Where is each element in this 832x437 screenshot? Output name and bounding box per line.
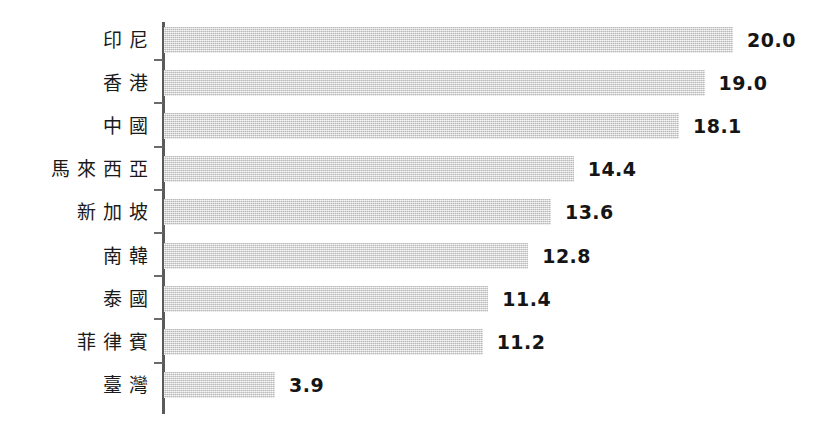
category-label: 中國	[96, 116, 155, 135]
category-label: 泰國	[96, 289, 155, 308]
bar-value-label: 12.8	[542, 245, 591, 267]
bar-row: 泰國11.4	[0, 277, 832, 320]
bar	[164, 286, 488, 312]
category-label: 香港	[96, 73, 155, 92]
bar	[164, 113, 679, 139]
bar	[164, 329, 483, 355]
category-label: 印尼	[96, 30, 155, 49]
bar	[164, 70, 705, 96]
bar	[164, 372, 275, 398]
bar-chart: 印尼20.0香港19.0中國18.1馬來西亞14.4新加坡13.6南韓12.8泰…	[0, 0, 832, 437]
bar-row: 中國18.1	[0, 104, 832, 147]
bar-row: 南韓12.8	[0, 234, 832, 277]
bar-row: 印尼20.0	[0, 18, 832, 61]
category-label: 新加坡	[70, 203, 155, 222]
bar	[164, 27, 733, 53]
bar-row: 香港19.0	[0, 61, 832, 104]
bar-value-label: 18.1	[693, 115, 742, 137]
bar-value-label: 11.2	[497, 331, 546, 353]
bar-value-label: 11.4	[502, 288, 551, 310]
category-label: 南韓	[96, 246, 155, 265]
category-label: 馬來西亞	[44, 160, 155, 179]
plot-area: 印尼20.0香港19.0中國18.1馬來西亞14.4新加坡13.6南韓12.8泰…	[0, 0, 832, 437]
category-label: 臺灣	[96, 376, 155, 395]
bar-row: 新加坡13.6	[0, 191, 832, 234]
bar-value-label: 20.0	[747, 29, 796, 51]
bar-value-label: 14.4	[588, 158, 637, 180]
bar	[164, 199, 551, 225]
bar-value-label: 19.0	[719, 72, 768, 94]
bar	[164, 156, 574, 182]
bar-row: 菲律賓11.2	[0, 320, 832, 363]
bar-row: 馬來西亞14.4	[0, 148, 832, 191]
category-label: 菲律賓	[70, 332, 155, 351]
bar-value-label: 13.6	[565, 201, 614, 223]
bar-row: 臺灣3.9	[0, 364, 832, 407]
bar	[164, 243, 528, 269]
bar-value-label: 3.9	[289, 374, 324, 396]
